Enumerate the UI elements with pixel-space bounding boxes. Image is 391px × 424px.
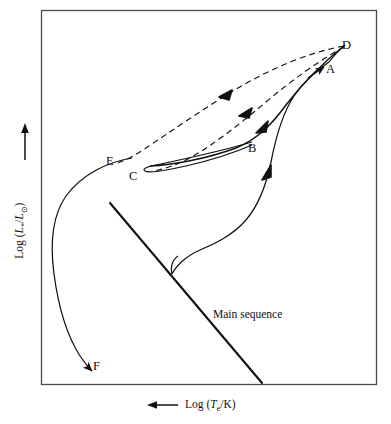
y-axis-label-slash: /	[13, 220, 25, 223]
track-c-loop	[144, 142, 252, 172]
arrowhead-to-a	[308, 67, 324, 78]
y-axis-label-sun-symbol: ⊙	[20, 206, 29, 213]
point-label-d: D	[342, 38, 351, 52]
point-label-f: F	[93, 359, 100, 373]
x-axis-label: Log (Te/K)	[185, 398, 236, 413]
arrowhead-dashed-to-c	[239, 108, 252, 118]
y-axis-label-group: Log (L*/L⊙)	[10, 175, 28, 295]
y-axis-label-lsun: L	[13, 213, 25, 219]
x-axis-label-prefix: Log (	[185, 398, 210, 410]
y-axis-arrow-head	[21, 123, 29, 133]
arrowhead-b-to-d	[256, 121, 268, 133]
point-label-c: C	[129, 169, 137, 183]
point-label-a: A	[326, 62, 335, 76]
y-axis-label-l: L	[13, 227, 25, 233]
track-e-to-f	[52, 158, 132, 371]
x-axis-arrow-head	[147, 401, 157, 409]
x-axis-label-suffix: /K)	[220, 398, 235, 410]
point-label-b: B	[248, 141, 256, 155]
y-axis-label-star: *	[20, 223, 29, 227]
track-s-bend	[171, 256, 178, 274]
arrowhead-ascending-track	[262, 165, 271, 180]
y-axis-label-suffix: )	[13, 203, 25, 207]
y-axis-label: Log (L*/L⊙)	[13, 175, 28, 287]
y-axis-label-prefix: Log (	[13, 233, 25, 258]
track-ascending-to-a	[172, 62, 329, 274]
dashed-track-d-to-e	[118, 46, 344, 163]
point-label-e: E	[106, 154, 114, 168]
plot-canvas: A B C D E F Main sequence	[0, 0, 391, 424]
hr-diagram-figure: A B C D E F Main sequence Log (L*/L⊙) Lo…	[0, 0, 391, 424]
main-sequence-line	[110, 203, 262, 383]
main-sequence-label: Main sequence	[213, 308, 282, 321]
